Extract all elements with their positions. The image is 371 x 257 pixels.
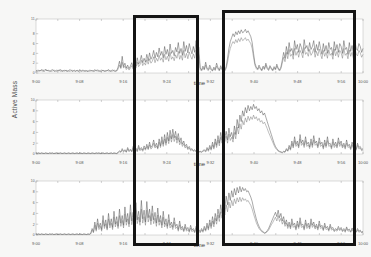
y-tick-label: 4	[33, 131, 35, 135]
x-tick-label: 9:48	[294, 239, 302, 248]
y-tick-label: 0	[33, 71, 35, 75]
y-tick-label: 0	[33, 152, 35, 156]
y-tick-label: 6	[33, 42, 35, 46]
x-tick-label: 9:48	[294, 77, 302, 86]
y-tick-label: 11	[31, 17, 35, 21]
y-tick-label: 4	[33, 52, 35, 56]
subplot-panel-bottom: 0246810	[25, 178, 365, 240]
x-axis-title: time	[194, 160, 205, 169]
x-tick-label: 9:16	[119, 77, 127, 86]
y-tick-label: 10	[31, 98, 35, 102]
figure-canvas: Active Mass 0246811 9:009:089:169:249:32…	[0, 0, 371, 257]
x-axis-bottom: 9:009:089:169:249:329:409:489:5610:00tim…	[25, 239, 365, 248]
y-axis-label: Active Mass	[11, 60, 18, 140]
y-tick-label: 8	[33, 190, 35, 194]
y-tick-label: 0	[33, 233, 35, 237]
plot-frame	[36, 100, 363, 154]
plot-frame	[36, 19, 363, 73]
panel-bottom-plot: 0246810	[25, 178, 365, 240]
x-tick-label: 9:16	[119, 158, 127, 167]
x-tick-label: 9:40	[250, 77, 258, 86]
y-tick-label: 8	[33, 109, 35, 113]
x-tick-label: 9:00	[32, 239, 40, 248]
y-tick-label: 4	[33, 212, 35, 216]
x-axis-top: 9:009:089:169:249:329:409:489:5610:00tim…	[25, 77, 365, 86]
x-tick-label: 9:32	[206, 77, 214, 86]
x-tick-label: 9:08	[76, 239, 84, 248]
panel-middle-plot: 0246810	[25, 97, 365, 159]
y-tick-label: 2	[33, 223, 35, 227]
x-tick-label: 9:00	[32, 158, 40, 167]
x-axis-title: time	[194, 79, 205, 88]
x-axis-title: time	[194, 241, 205, 250]
x-tick-label: 9:00	[32, 77, 40, 86]
x-tick-label: 9:40	[250, 239, 258, 248]
y-tick-label: 2	[33, 142, 35, 146]
x-tick-label: 9:32	[206, 158, 214, 167]
x-tick-label: 10:00	[358, 239, 368, 248]
subplot-panel-top: 0246811	[25, 16, 365, 78]
x-tick-label: 10:00	[358, 77, 368, 86]
y-tick-label: 6	[33, 120, 35, 124]
x-tick-label: 9:56	[337, 77, 345, 86]
panel-top-plot: 0246811	[25, 16, 365, 78]
y-tick-label: 6	[33, 201, 35, 205]
x-tick-label: 9:08	[76, 158, 84, 167]
plot-frame	[36, 181, 363, 235]
y-tick-label: 10	[31, 179, 35, 183]
x-tick-label: 9:24	[163, 77, 171, 86]
x-tick-label: 9:08	[76, 77, 84, 86]
x-tick-label: 9:24	[163, 158, 171, 167]
x-tick-label: 10:00	[358, 158, 368, 167]
subplot-panel-middle: 0246810	[25, 97, 365, 159]
x-tick-label: 9:48	[294, 158, 302, 167]
x-tick-label: 9:32	[206, 239, 214, 248]
x-axis-middle: 9:009:089:169:249:329:409:489:5610:00tim…	[25, 158, 365, 167]
x-tick-label: 9:40	[250, 158, 258, 167]
x-tick-label: 9:16	[119, 239, 127, 248]
y-tick-label: 2	[33, 61, 35, 65]
x-tick-label: 9:24	[163, 239, 171, 248]
x-tick-label: 9:56	[337, 158, 345, 167]
x-tick-label: 9:56	[337, 239, 345, 248]
y-tick-label: 8	[33, 32, 35, 36]
